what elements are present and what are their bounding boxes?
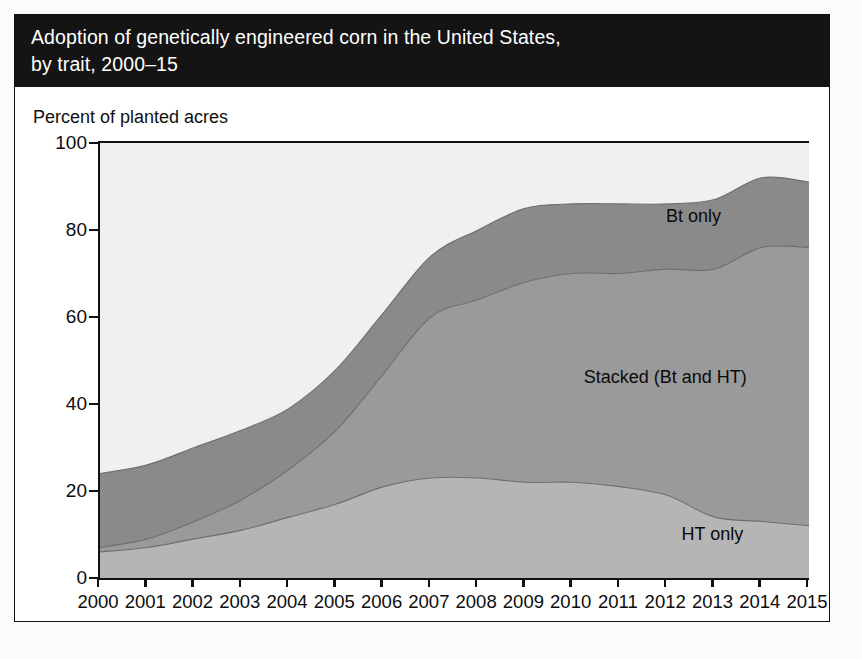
x-tick-label-2008: 2008 bbox=[454, 591, 498, 613]
series-label-ht-only: HT only bbox=[682, 524, 744, 545]
y-tick-mark-100 bbox=[89, 142, 98, 145]
x-tick-mark-2008 bbox=[475, 578, 478, 587]
chart-card: Adoption of genetically engineered corn … bbox=[14, 14, 830, 622]
x-tick-label-2006: 2006 bbox=[360, 591, 404, 613]
x-tick-label-2011: 2011 bbox=[596, 591, 640, 613]
y-tick-label-100: 100 bbox=[35, 132, 87, 154]
x-tick-mark-2013 bbox=[711, 578, 714, 587]
y-tick-mark-80 bbox=[89, 229, 98, 232]
x-tick-mark-2012 bbox=[664, 578, 667, 587]
series-label-bt-only: Bt only bbox=[666, 206, 721, 227]
y-tick-label-60: 60 bbox=[35, 306, 87, 328]
chart-title-line-2: by trait, 2000–15 bbox=[31, 51, 813, 78]
chart-title-line-1: Adoption of genetically engineered corn … bbox=[31, 24, 813, 51]
y-tick-label-80: 80 bbox=[35, 219, 87, 241]
x-tick-label-2000: 2000 bbox=[76, 591, 120, 613]
x-tick-label-2009: 2009 bbox=[501, 591, 545, 613]
x-tick-mark-2002 bbox=[191, 578, 194, 587]
y-tick-mark-40 bbox=[89, 403, 98, 406]
y-axis-title: Percent of planted acres bbox=[33, 107, 228, 128]
x-tick-mark-2000 bbox=[97, 578, 100, 587]
x-tick-label-2010: 2010 bbox=[549, 591, 593, 613]
y-tick-mark-60 bbox=[89, 316, 98, 319]
x-tick-mark-2006 bbox=[380, 578, 383, 587]
y-tick-label-20: 20 bbox=[35, 480, 87, 502]
chart-title-bar: Adoption of genetically engineered corn … bbox=[15, 15, 829, 87]
x-tick-mark-2015 bbox=[806, 578, 809, 587]
x-tick-label-2005: 2005 bbox=[312, 591, 356, 613]
x-tick-label-2001: 2001 bbox=[123, 591, 167, 613]
x-tick-label-2014: 2014 bbox=[738, 591, 782, 613]
x-tick-label-2012: 2012 bbox=[643, 591, 687, 613]
x-tick-mark-2004 bbox=[286, 578, 289, 587]
x-tick-label-2004: 2004 bbox=[265, 591, 309, 613]
y-tick-label-0: 0 bbox=[35, 567, 87, 589]
y-tick-label-40: 40 bbox=[35, 393, 87, 415]
x-tick-mark-2005 bbox=[333, 578, 336, 587]
x-tick-label-2013: 2013 bbox=[690, 591, 734, 613]
x-tick-mark-2007 bbox=[428, 578, 431, 587]
x-tick-label-2002: 2002 bbox=[171, 591, 215, 613]
x-tick-mark-2014 bbox=[758, 578, 761, 587]
y-tick-mark-20 bbox=[89, 490, 98, 493]
x-tick-label-2003: 2003 bbox=[218, 591, 262, 613]
x-tick-label-2007: 2007 bbox=[407, 591, 451, 613]
series-label-stacked-bt-and-ht: Stacked (Bt and HT) bbox=[584, 367, 747, 388]
x-tick-mark-2009 bbox=[522, 578, 525, 587]
x-tick-label-2015: 2015 bbox=[785, 591, 829, 613]
x-tick-mark-2003 bbox=[239, 578, 242, 587]
x-tick-mark-2011 bbox=[617, 578, 620, 587]
x-tick-mark-2010 bbox=[569, 578, 572, 587]
x-tick-mark-2001 bbox=[144, 578, 147, 587]
figure-root: the pool of available tests is not as ex… bbox=[0, 0, 862, 659]
